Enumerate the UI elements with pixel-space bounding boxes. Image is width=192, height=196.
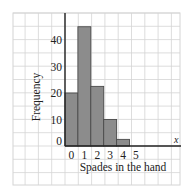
x-tick-label: 4 [120,149,126,161]
bar-0 [65,93,78,146]
x-axis-end-label: x [173,134,179,145]
y-tick-label: 20 [51,87,63,99]
y-axis-label: Frequency [30,72,43,121]
y-tick-label: 10 [51,114,63,126]
x-tick-label: 0 [69,149,75,161]
x-tick-label: 1 [81,149,87,161]
bar-2 [91,86,104,146]
histogram-chart: 010203040 012345 x Spades in the hand Fr… [0,0,192,196]
x-tick-label: 2 [94,149,100,161]
y-tick-label: 30 [51,61,63,73]
x-tick-label: 3 [107,149,113,161]
x-tick-label: 5 [133,149,139,161]
bar-3 [104,120,117,147]
x-axis-label: Spades in the hand [80,161,167,174]
bar-4 [117,139,130,146]
bar-1 [78,27,91,146]
y-tick-label: 0 [56,135,62,147]
y-tick-label: 40 [51,34,63,46]
